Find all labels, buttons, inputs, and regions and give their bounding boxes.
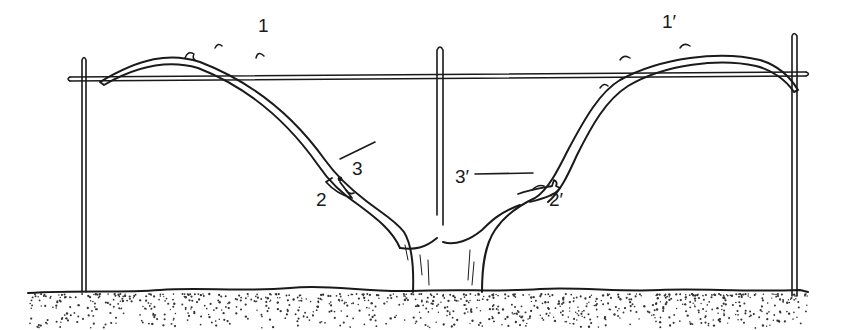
labels: 1 1′ 3 2 3′ 2′ [258,11,677,210]
right-spur [475,173,560,202]
label-2: 2 [316,189,327,210]
trellis-wire [68,72,809,81]
label-1: 1 [258,15,269,36]
right-post [792,34,797,297]
vine-training-diagram: 1 1′ 3 2 3′ 2′ [0,0,842,330]
label-3-prime: 3′ [455,166,470,187]
label-2-prime: 2′ [549,189,564,210]
soil [28,287,808,329]
label-3: 3 [352,158,363,179]
left-post [82,58,86,293]
vine [100,44,798,292]
trunk [100,57,413,292]
center-post [437,47,443,225]
label-1-prime: 1′ [662,11,677,32]
